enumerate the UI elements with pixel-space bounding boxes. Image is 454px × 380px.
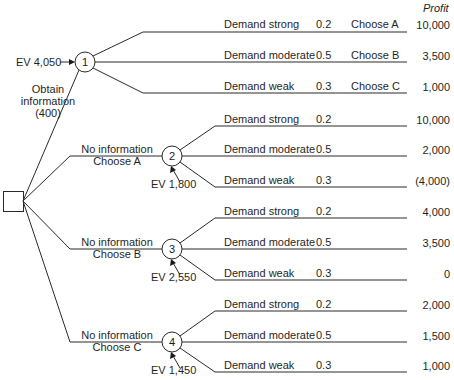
node1-prob-moderate: 0.5 [316, 49, 331, 61]
node4-profit-moderate: 1,500 [400, 330, 450, 342]
node3-profit-moderate: 3,500 [400, 237, 450, 249]
no-info-b-line1: No information [72, 236, 162, 248]
node2-prob-strong: 0.2 [316, 113, 331, 125]
obtain-info-label-2: information [13, 95, 83, 107]
node3-prob-weak: 0.3 [316, 267, 331, 279]
node-4-label: 4 [162, 336, 182, 348]
node-1-label: 1 [75, 56, 95, 68]
node4-demand-strong: Demand strong [224, 298, 299, 310]
obtain-info-cost: (400) [13, 107, 83, 119]
node3-prob-moderate: 0.5 [316, 236, 331, 248]
node2-profit-strong: 10,000 [400, 114, 450, 126]
node4-profit-weak: 1,000 [400, 360, 450, 372]
node3-demand-weak: Demand weak [224, 267, 294, 279]
node1-choice-strong: Choose A [351, 18, 399, 30]
ev-node-3: EV 2,550 [151, 271, 196, 283]
node3-prob-strong: 0.2 [316, 205, 331, 217]
no-info-c-line1: No information [72, 329, 162, 341]
node3-profit-strong: 4,000 [400, 206, 450, 218]
profit-header: Profit [423, 2, 449, 14]
node2-prob-weak: 0.3 [316, 174, 331, 186]
decision-node-square [4, 192, 24, 212]
node1-demand-strong: Demand strong [224, 18, 299, 30]
node3-demand-moderate: Demand moderate [224, 236, 315, 248]
node3-demand-strong: Demand strong [224, 205, 299, 217]
node2-demand-weak: Demand weak [224, 174, 294, 186]
node1-prob-weak: 0.3 [316, 80, 331, 92]
node1-demand-moderate: Demand moderate [224, 49, 315, 61]
node1-profit-strong: 10,000 [400, 19, 450, 31]
ev-node-4: EV 1,450 [151, 364, 196, 376]
node1-profit-weak: 1,000 [400, 81, 450, 93]
ev-node-1: EV 4,050 [16, 56, 61, 68]
no-info-a-line2: Choose A [72, 155, 162, 167]
node4-demand-moderate: Demand moderate [224, 329, 315, 341]
node3-profit-weak: 0 [400, 268, 450, 280]
node-2-label: 2 [162, 150, 182, 162]
node1-profit-moderate: 3,500 [400, 50, 450, 62]
node2-prob-moderate: 0.5 [316, 143, 331, 155]
node4-demand-weak: Demand weak [224, 359, 294, 371]
node2-demand-strong: Demand strong [224, 113, 299, 125]
node4-prob-strong: 0.2 [316, 298, 331, 310]
no-info-c-line2: Choose C [72, 341, 162, 353]
node4-prob-moderate: 0.5 [316, 329, 331, 341]
node1-demand-weak: Demand weak [224, 80, 294, 92]
node2-profit-weak: (4,000) [400, 175, 450, 187]
ev-node-2: EV 1,800 [151, 178, 196, 190]
node1-prob-strong: 0.2 [316, 18, 331, 30]
node1-choice-moderate: Choose B [351, 49, 399, 61]
node2-profit-moderate: 2,000 [400, 144, 450, 156]
node1-choice-weak: Choose C [351, 80, 400, 92]
no-info-a-line1: No information [72, 143, 162, 155]
node4-profit-strong: 2,000 [400, 299, 450, 311]
arrowheads [69, 59, 176, 359]
node4-prob-weak: 0.3 [316, 359, 331, 371]
node2-demand-moderate: Demand moderate [224, 143, 315, 155]
node-3-label: 3 [162, 243, 182, 255]
obtain-info-label-1: Obtain [13, 83, 83, 95]
no-info-b-line2: Choose B [72, 248, 162, 260]
